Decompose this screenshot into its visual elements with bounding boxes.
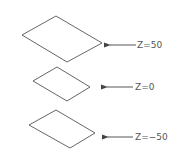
- plane-z0-shape: [33, 67, 90, 101]
- label-z50: Z=50: [137, 40, 162, 50]
- z-planes-diagram: Z=50 Z=0 Z=−50: [0, 0, 172, 157]
- plane-z50: Z=50: [22, 16, 162, 62]
- plane-zneg50-shape: [29, 110, 95, 148]
- plane-zneg50: Z=−50: [29, 110, 168, 148]
- plane-z50-shape: [22, 16, 102, 62]
- label-zneg50: Z=−50: [135, 132, 168, 142]
- plane-z0: Z=0: [33, 67, 155, 101]
- label-z0: Z=0: [135, 82, 155, 92]
